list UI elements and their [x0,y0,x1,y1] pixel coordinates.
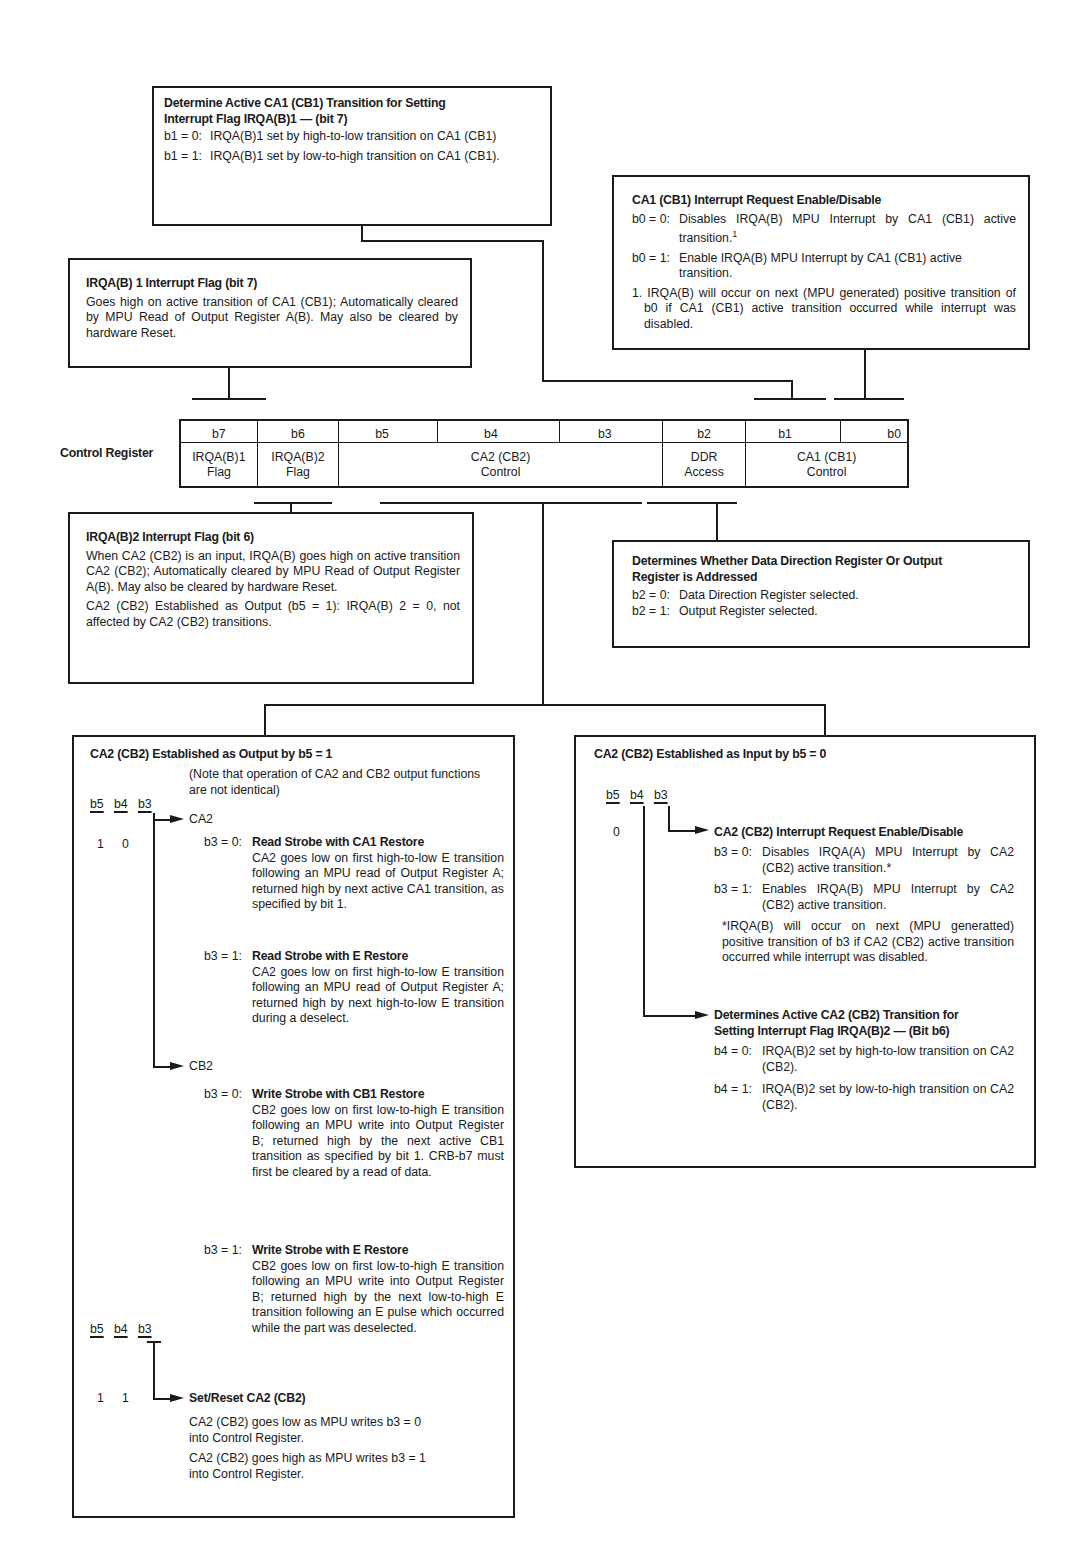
box-title: CA1 (CB1) Interrupt Request Enable/Disab… [632,193,1016,209]
arrow-right-icon [695,826,709,834]
list-item: b3 = 1: Read Strobe with E RestoreCA2 go… [204,949,504,1027]
connector [647,502,737,504]
box-title: IRQA(B)2 Interrupt Flag (bit 6) [86,530,460,546]
bit-value: 1 [97,837,104,853]
field-ca2-control: CA2 (CB2)Control [339,443,663,488]
field-irq1-flag: IRQA(B)1Flag [180,443,257,488]
bit-value: 1 [122,1391,129,1407]
connector [290,502,292,512]
connector [542,502,544,704]
list-item: b0 = 1: Enable IRQA(B) MPU Interrupt by … [632,251,1016,282]
list-item: b2 = 0: Data Direction Register selected… [632,588,1016,604]
box-title: Determines Whether Data Direction Regist… [632,554,1016,570]
bit-cell: b1 [746,420,841,443]
field-row: IRQA(B)1Flag IRQA(B)2Flag CA2 (CB2)Contr… [180,443,908,488]
list-item: b3 = 0: Read Strobe with CA1 RestoreCA2 … [204,835,504,913]
box-text: When CA2 (CB2) is an input, IRQA(B) goes… [86,549,460,596]
list-item: b3 = 1: Write Strobe with E RestoreCB2 g… [204,1243,504,1336]
bit-value: 0 [613,825,620,841]
connector [834,398,904,400]
connector [542,380,792,382]
list-item: b0 = 0: Disables IRQA(B) MPU Interrupt b… [632,212,1016,247]
bit-cell: b7 [180,420,257,443]
box-title: Determine Active CA1 (CB1) Transition fo… [164,96,540,112]
list-item: b3 = 0: Write Strobe with CB1 RestoreCB2… [204,1087,504,1180]
cb2-label: CB2 [189,1059,213,1075]
connector [254,502,332,504]
arrow-right-icon [695,1011,709,1019]
connector [380,502,642,504]
connector [824,704,826,736]
connector [791,380,793,398]
box-text: CA2 (CB2) Established as Output (b5 = 1)… [86,599,460,630]
connector [668,830,698,832]
connector [542,240,544,381]
connector [264,704,266,736]
connector [716,502,718,540]
transition-title: Determines Active CA2 (CB2) Transition f… [714,1008,959,1024]
box-irq2-flag: IRQA(B)2 Interrupt Flag (bit 6) When CA2… [68,512,474,684]
connector [264,704,825,706]
box-irq1-flag: IRQA(B) 1 Interrupt Flag (bit 7) Goes hi… [68,258,472,368]
connector [754,398,826,400]
box-note: (Note that operation of CA2 and CB2 outp… [189,767,499,798]
connector [153,813,155,1067]
footnote: 1. IRQA(B) will occur on next (MPU gener… [632,286,1016,333]
box-title: Register is Addressed [632,570,1016,586]
list-item: b3 = 1: Enables IRQA(B) MPU Interrupt by… [714,882,1014,913]
field-ca1-control: CA1 (CB1)Control [746,443,908,488]
box-text: Goes high on active transition of CA1 (C… [86,295,458,342]
bit-cell: b0 [841,420,908,443]
footnote: *IRQA(B) will occur on next (MPU generat… [722,919,1014,966]
list-item: b3 = 0: Disables IRQA(A) MPU Interrupt b… [714,845,1014,876]
bit-cell: b4 [438,420,560,443]
list-item: b1 = 1: IRQA(B)1 set by low-to-high tran… [164,149,540,165]
box-ca2-input: CA2 (CB2) Established as Input by b5 = 0… [574,735,1036,1168]
ca2-label: CA2 [189,812,213,828]
bit-headers: b5 b4 b3 [90,1322,152,1338]
bit-headers: b5 b4 b3 [90,797,152,813]
connector [153,1341,155,1399]
list-item: b1 = 0: IRQA(B)1 set by high-to-low tran… [164,129,540,145]
box-title: CA2 (CB2) Established as Output by b5 = … [90,747,332,763]
connector [643,1015,698,1017]
bit-cell: b5 [339,420,438,443]
connector [864,350,866,398]
box-title: Interrupt Flag IRQA(B)1 — (bit 7) [164,112,540,128]
box-ca1-enable: CA1 (CB1) Interrupt Request Enable/Disab… [612,175,1030,350]
box-ddr-access: Determines Whether Data Direction Regist… [612,540,1030,648]
bit-cell: b6 [257,420,339,443]
bit-value: 0 [122,837,129,853]
list-item: b4 = 0: IRQA(B)2 set by high-to-low tran… [714,1044,1014,1075]
set-reset-title: Set/Reset CA2 (CB2) [189,1391,305,1407]
arrow-right-icon [170,815,184,823]
list-item: b4 = 1: IRQA(B)2 set by low-to-high tran… [714,1082,1014,1113]
connector [228,368,230,398]
set-reset-text: CA2 (CB2) goes low as MPU writes b3 = 0 … [189,1415,429,1446]
enable-title: CA2 (CB2) Interrupt Request Enable/Disab… [714,825,963,841]
box-ca1-transition: Determine Active CA1 (CB1) Transition fo… [152,86,552,226]
set-reset-text: CA2 (CB2) goes high as MPU writes b3 = 1… [189,1451,429,1482]
connector [361,226,363,241]
connector [361,240,543,242]
box-ca2-output: CA2 (CB2) Established as Output by b5 = … [72,735,515,1518]
arrow-right-icon [170,1062,184,1070]
bit-value: 1 [97,1391,104,1407]
box-title: IRQA(B) 1 Interrupt Flag (bit 7) [86,276,458,292]
bit-header-row: b7 b6 b5 b4 b3 b2 b1 b0 [180,420,908,443]
transition-title: Setting Interrupt Flag IRQA(B)2 — (Bit b… [714,1024,949,1040]
bit-cell: b3 [559,420,662,443]
connector [192,398,266,400]
field-ddr-access: DDRAccess [662,443,745,488]
connector [668,806,670,831]
field-irq2-flag: IRQA(B)2Flag [257,443,339,488]
connector [643,806,645,1016]
box-title: CA2 (CB2) Established as Input by b5 = 0 [594,747,826,763]
bit-headers: b5 b4 b3 [606,788,668,804]
control-register-label: Control Register [60,446,153,462]
arrow-right-icon [170,1394,184,1402]
list-item: b2 = 1: Output Register selected. [632,604,1016,620]
bit-cell: b2 [662,420,745,443]
control-register-table: b7 b6 b5 b4 b3 b2 b1 b0 IRQA(B)1Flag IRQ… [179,419,909,488]
